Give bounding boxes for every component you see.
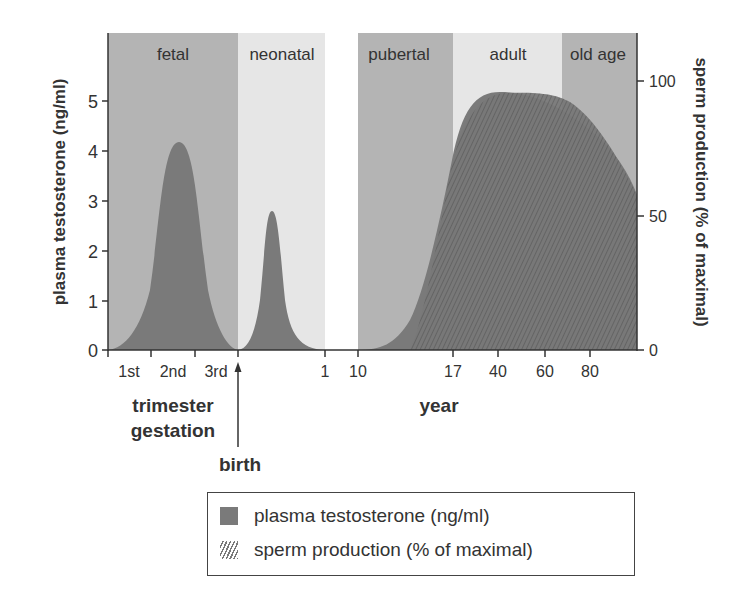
left-y-tick-label: 2 — [88, 242, 98, 262]
legend-item-sperm-production: sperm production (% of maximal) — [220, 535, 533, 565]
birth-label: birth — [219, 454, 261, 475]
solid-swatch-icon — [220, 507, 238, 525]
left-y-tick-label: 0 — [88, 341, 98, 361]
x-tick-label: 40 — [489, 363, 507, 380]
legend-item-testosterone: plasma testosterone (ng/ml) — [220, 501, 490, 531]
x-tick-label: 80 — [581, 363, 599, 380]
phase-label-fetal: fetal — [157, 45, 189, 64]
phase-label-neonatal: neonatal — [249, 45, 314, 64]
phase-label-adult: adult — [490, 45, 527, 64]
left-y-tick-label: 1 — [88, 292, 98, 312]
legend-label: sperm production (% of maximal) — [254, 539, 533, 561]
x-tick-label: 60 — [536, 363, 554, 380]
x-tick-label: 10 — [349, 363, 367, 380]
legend: plasma testosterone (ng/ml) sperm produc… — [207, 492, 635, 576]
phase-label-pubertal: pubertal — [368, 45, 429, 64]
left-y-axis-title: plasma testosterone (ng/ml) — [50, 79, 69, 306]
birth-arrow-icon — [235, 362, 242, 447]
x-axis-label-gestation: gestation — [131, 420, 215, 441]
x-axis-label-trimester: trimester — [132, 395, 214, 416]
left-y-tick-label: 4 — [88, 142, 98, 162]
x-tick-label: 17 — [444, 363, 462, 380]
x-axis-label-year: year — [419, 395, 459, 416]
right-y-axis-title: sperm production (% of maximal) — [692, 57, 711, 326]
left-y-ticks — [102, 101, 108, 350]
x-tick-label: 2nd — [160, 363, 187, 380]
right-y-ticks — [637, 81, 644, 350]
hatched-swatch-icon — [220, 541, 238, 559]
right-y-tick-label: 100 — [649, 73, 676, 90]
x-tick-label: 3rd — [204, 363, 227, 380]
x-ticks — [108, 350, 590, 357]
x-tick-label: 1st — [118, 363, 140, 380]
right-y-tick-label: 50 — [649, 208, 667, 225]
phase-label-oldage: old age — [570, 45, 626, 64]
left-y-tick-label: 5 — [88, 92, 98, 112]
left-y-tick-label: 3 — [88, 192, 98, 212]
legend-label: plasma testosterone (ng/ml) — [254, 505, 490, 527]
right-y-tick-label: 0 — [649, 342, 658, 359]
x-tick-label: 1 — [321, 363, 330, 380]
